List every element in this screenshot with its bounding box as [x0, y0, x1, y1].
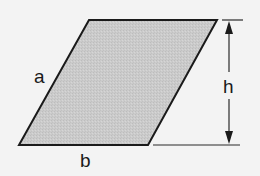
arrow-up-icon: [225, 21, 233, 34]
parallelogram-diagram: a b h: [0, 0, 260, 176]
diagram-svg: a b h: [0, 0, 260, 176]
base-label-b: b: [80, 150, 91, 171]
parallelogram-shape: [19, 20, 217, 145]
height-label-h: h: [223, 76, 234, 97]
arrow-down-icon: [225, 131, 233, 144]
side-label-a: a: [34, 66, 45, 87]
